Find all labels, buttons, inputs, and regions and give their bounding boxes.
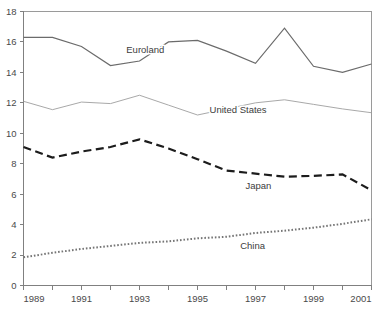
series-line-japan [24, 139, 372, 190]
x-tick-label: 2001 [350, 293, 371, 304]
series-line-united-states [24, 95, 372, 115]
x-tick-label: 1993 [129, 293, 150, 304]
y-tick-label: 18 [6, 6, 17, 17]
series-line-euroland [24, 28, 372, 72]
y-tick-label: 8 [11, 158, 16, 169]
y-tick-label: 0 [11, 280, 16, 291]
series-label-united-states: United States [210, 104, 267, 115]
x-tick-label: 1999 [303, 293, 324, 304]
series-label-euroland: Euroland [126, 44, 164, 55]
x-tick-label: 1991 [71, 293, 92, 304]
x-tick-label: 1997 [245, 293, 266, 304]
x-tick-label: 1995 [187, 293, 208, 304]
y-tick-label: 14 [6, 67, 17, 78]
series-label-china: China [240, 240, 266, 251]
series-label-japan: Japan [245, 180, 271, 191]
y-tick-label: 16 [6, 36, 17, 47]
x-tick-label: 1989 [24, 293, 45, 304]
chart-canvas: 0246810121416181989199119931995199719992… [0, 0, 386, 317]
series-line-china [24, 219, 372, 257]
plot-area-border [24, 12, 372, 286]
line-chart: 0246810121416181989199119931995199719992… [0, 0, 386, 317]
y-tick-label: 4 [11, 219, 16, 230]
y-tick-label: 6 [11, 189, 16, 200]
y-tick-label: 2 [11, 249, 16, 260]
y-tick-label: 12 [6, 97, 17, 108]
y-tick-label: 10 [6, 128, 17, 139]
